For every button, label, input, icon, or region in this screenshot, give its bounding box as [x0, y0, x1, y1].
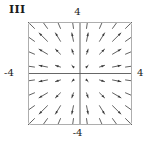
arrow-head	[55, 79, 58, 81]
arrow-shaft	[28, 119, 35, 125]
vector-arrow	[85, 65, 88, 68]
arrow-shaft	[113, 22, 121, 28]
vector-arrow	[113, 93, 121, 98]
vector-arrow	[100, 93, 105, 98]
arrow-shaft	[126, 22, 133, 28]
y-axis-max-tick-label: 4	[0, 6, 155, 17]
plot-area	[28, 22, 132, 125]
arrow-head	[85, 79, 88, 82]
vector-arrow	[113, 49, 121, 54]
vector-arrow	[39, 93, 47, 98]
vector-arrow	[28, 93, 35, 98]
vector-arrow	[71, 22, 73, 28]
vector-arrow	[39, 80, 47, 82]
vector-arrow	[71, 119, 73, 125]
arrow-head	[101, 65, 104, 67]
vector-arrow	[39, 22, 47, 28]
arrow-shaft	[28, 33, 35, 41]
vector-arrow	[113, 80, 121, 82]
vector-arrow	[126, 119, 133, 125]
arrow-head	[101, 79, 104, 81]
vector-arrow	[72, 49, 74, 54]
vector-arrow	[100, 49, 105, 54]
vector-arrow	[100, 33, 105, 41]
arrow-head	[86, 49, 88, 52]
arrow-head	[102, 111, 105, 114]
vector-arrow	[113, 22, 121, 28]
arrow-shaft	[113, 119, 121, 125]
arrow-shaft	[28, 22, 35, 28]
arrow-head	[72, 79, 75, 82]
arrow-head	[55, 111, 58, 114]
vector-arrow	[28, 106, 35, 114]
arrow-head	[118, 49, 121, 52]
vector-arrow	[39, 65, 47, 67]
arrow-shaft	[100, 22, 105, 28]
arrow-head	[39, 49, 42, 52]
vector-arrow	[71, 106, 73, 114]
vector-arrow	[39, 33, 47, 41]
vector-arrow	[55, 79, 60, 81]
vector-arrow	[28, 49, 35, 54]
vector-arrow	[28, 22, 35, 28]
vector-arrow	[28, 33, 35, 41]
vector-arrow	[55, 119, 60, 125]
vector-arrow	[126, 80, 133, 82]
arrow-shaft	[87, 22, 89, 28]
arrow-shaft	[126, 119, 133, 125]
vector-arrow	[126, 49, 133, 54]
vector-arrow	[86, 93, 88, 98]
vector-arrow	[126, 22, 133, 28]
vector-arrow	[100, 65, 105, 67]
arrow-shaft	[72, 22, 74, 28]
vector-arrow	[100, 79, 105, 81]
vector-arrow	[28, 80, 35, 82]
vector-field-figure: III 4 -4 -4 4	[0, 0, 155, 147]
arrow-head	[72, 49, 74, 52]
arrow-head	[55, 65, 58, 67]
arrow-shaft	[55, 22, 60, 28]
arrow-shaft	[55, 119, 60, 125]
vector-arrow	[126, 106, 133, 114]
vector-arrow	[86, 106, 88, 114]
vector-arrow	[28, 65, 35, 67]
arrow-head	[102, 33, 105, 36]
arrow-shaft	[126, 33, 133, 41]
arrow-shaft	[39, 22, 47, 28]
arrow-head	[118, 95, 121, 98]
y-axis-min-tick-label: -4	[0, 127, 155, 138]
arrow-shaft	[126, 80, 133, 82]
arrow-shaft	[72, 119, 74, 125]
vector-arrow	[55, 65, 60, 67]
vector-arrow	[72, 93, 74, 98]
vector-arrow	[100, 22, 105, 28]
arrow-shaft	[28, 80, 35, 82]
arrow-shaft	[126, 65, 133, 67]
arrow-shaft	[28, 93, 35, 98]
vector-arrow	[72, 79, 75, 82]
vector-arrow	[39, 106, 47, 114]
vector-arrow	[86, 33, 88, 41]
vector-arrow	[85, 79, 88, 82]
vector-arrow	[86, 49, 88, 54]
arrow-head	[72, 94, 74, 97]
vector-arrow	[126, 65, 133, 67]
vector-arrow	[55, 22, 60, 28]
vector-arrow	[113, 33, 121, 41]
arrow-head	[39, 95, 42, 98]
vector-arrow	[39, 119, 47, 125]
vector-arrow	[87, 22, 89, 28]
vector-field-plot	[28, 22, 132, 125]
arrow-shaft	[126, 93, 133, 98]
x-axis-min-tick-label: -4	[4, 67, 14, 78]
vector-arrow	[72, 65, 75, 68]
vector-arrow	[28, 119, 35, 125]
arrow-shaft	[28, 49, 35, 54]
arrow-head	[86, 94, 88, 97]
arrow-shaft	[28, 65, 35, 67]
vector-arrow	[126, 93, 133, 98]
arrow-shaft	[100, 119, 105, 125]
vector-arrow	[71, 33, 73, 41]
vector-arrow	[55, 49, 60, 54]
vector-arrow	[39, 49, 47, 54]
